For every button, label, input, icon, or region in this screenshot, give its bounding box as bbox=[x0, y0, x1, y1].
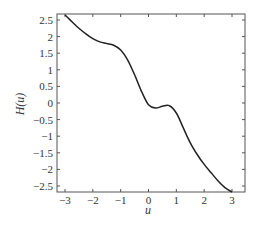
y-tick-label: −1 bbox=[41, 130, 53, 142]
x-tick-label: 1 bbox=[174, 194, 180, 206]
y-tick-label: 1.5 bbox=[39, 47, 53, 59]
y-tick-label: −2.5 bbox=[33, 180, 53, 192]
line-chart: −3−2−10123 2.521.510.50−0.5−1−1.5−2−2.5 … bbox=[0, 0, 260, 232]
y-tick-label: 1 bbox=[48, 64, 54, 76]
y-tick-label: 0 bbox=[48, 97, 54, 109]
y-axis-label: H(u) bbox=[13, 93, 27, 117]
x-axis-label: u bbox=[145, 203, 151, 217]
x-tick-label: −1 bbox=[115, 194, 127, 206]
x-tick-label: 2 bbox=[201, 194, 207, 206]
y-tick-label: 0.5 bbox=[39, 80, 53, 92]
data-line-H-u bbox=[65, 15, 232, 192]
y-tick-label: 2.5 bbox=[39, 14, 53, 26]
y-tick-label: 2 bbox=[48, 31, 54, 43]
x-axis-ticks: −3−2−10123 bbox=[59, 14, 235, 206]
plot-frame bbox=[57, 14, 245, 192]
x-tick-label: −3 bbox=[59, 194, 71, 206]
y-tick-label: −2 bbox=[41, 163, 53, 175]
y-axis-ticks: 2.521.510.50−0.5−1−1.5−2−2.5 bbox=[33, 14, 245, 192]
y-tick-label: −1.5 bbox=[33, 147, 53, 159]
x-tick-label: 3 bbox=[229, 194, 235, 206]
x-tick-label: −2 bbox=[87, 194, 99, 206]
y-tick-label: −0.5 bbox=[33, 114, 53, 126]
